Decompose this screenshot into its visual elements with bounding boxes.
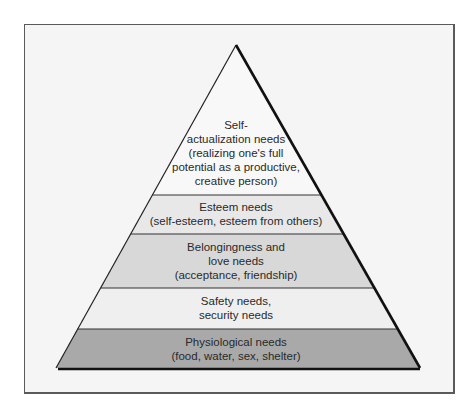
label-belongingness: Belongingness and love needs (acceptance… <box>136 240 336 282</box>
label-safety: Safety needs, security needs <box>136 294 336 322</box>
label-line: (realizing one's full <box>136 146 336 160</box>
label-line: Esteem needs <box>136 200 336 214</box>
label-line: potential as a productive, <box>136 160 336 174</box>
label-line: actualization needs <box>136 132 336 146</box>
label-line: security needs <box>136 308 336 322</box>
label-line: Physiological needs <box>136 335 336 349</box>
label-line: Belongingness and <box>136 240 336 254</box>
label-self-actualization: Self- actualization needs (realizing one… <box>136 118 336 188</box>
label-physiological: Physiological needs (food, water, sex, s… <box>136 335 336 363</box>
label-line: (self-esteem, esteem from others) <box>136 214 336 228</box>
label-esteem: Esteem needs (self-esteem, esteem from o… <box>136 200 336 228</box>
label-line: creative person) <box>136 174 336 188</box>
label-line: (food, water, sex, shelter) <box>136 349 336 363</box>
label-line: (acceptance, friendship) <box>136 268 336 282</box>
label-line: Safety needs, <box>136 294 336 308</box>
label-line: Self- <box>136 118 336 132</box>
label-line: love needs <box>136 254 336 268</box>
